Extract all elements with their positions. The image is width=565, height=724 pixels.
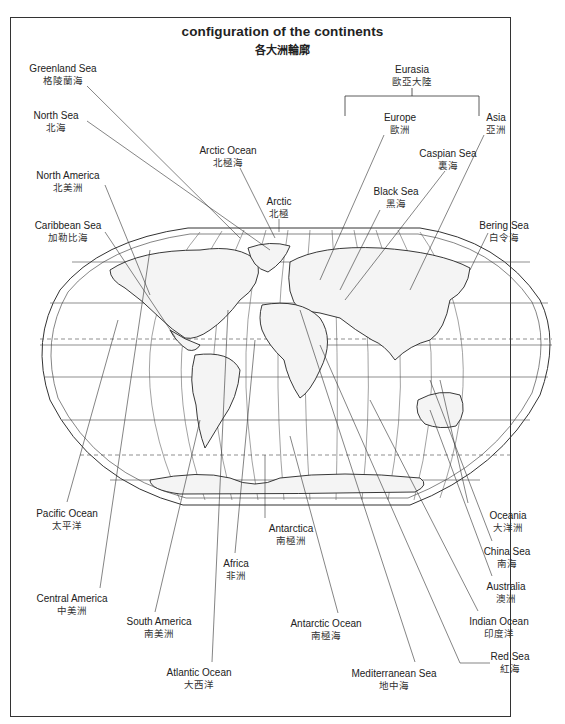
label-oceania: Oceania大洋洲: [489, 510, 526, 534]
label-south-america: South America南美洲: [126, 616, 191, 640]
label-africa: Africa非洲: [223, 558, 249, 582]
africa-shape: [260, 303, 328, 398]
label-north-sea: North Sea北海: [33, 110, 78, 134]
label-australia: Australia澳洲: [487, 581, 526, 605]
leader-lines: [67, 86, 492, 663]
label-caspian-sea: Caspian Sea裏海: [419, 148, 476, 172]
label-pacific-ocean: Pacific Ocean太平洋: [36, 508, 98, 532]
label-indian-ocean: Indian Ocean印度洋: [469, 616, 529, 640]
label-black-sea: Black Sea黑海: [373, 186, 418, 210]
label-mediterranean-sea: Mediterranean Sea地中海: [351, 668, 436, 692]
south-america-shape: [192, 354, 240, 448]
label-red-sea: Red Sea紅海: [491, 651, 530, 675]
label-bering-sea: Bering Sea白令海: [479, 220, 528, 244]
label-arctic: Arctic北極: [267, 196, 292, 220]
label-atlantic-ocean: Atlantic Ocean大西洋: [166, 667, 231, 691]
north-america-shape: [110, 249, 259, 339]
continents: [110, 243, 470, 494]
label-europe: Europe歐洲: [384, 112, 416, 136]
australia-shape: [417, 392, 463, 427]
label-north-america: North America北美洲: [36, 170, 99, 194]
label-asia: Asia亞洲: [486, 112, 506, 136]
label-central-america: Central America中美洲: [36, 593, 107, 617]
label-arctic-ocean: Arctic Ocean北極海: [199, 145, 256, 169]
label-antarctica: Antarctica南極洲: [269, 523, 313, 547]
label-eurasia: Eurasia歐亞大陸: [392, 64, 432, 88]
label-caribbean-sea: Caribbean Sea加勒比海: [35, 220, 102, 244]
label-greenland-sea: Greenland Sea格陵蘭海: [29, 63, 96, 87]
label-antarctic-ocean: Antarctic Ocean南極海: [290, 618, 361, 642]
antarctica-shape: [150, 474, 424, 494]
label-china-sea: China Sea南海: [484, 546, 531, 570]
